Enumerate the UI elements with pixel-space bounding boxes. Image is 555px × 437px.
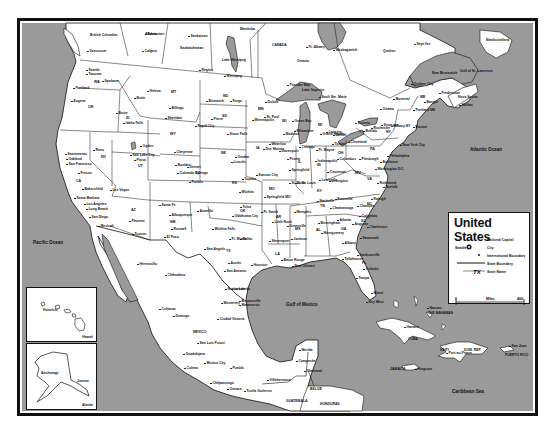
city-dot-icon	[239, 192, 241, 194]
city-label: Rapid City	[198, 125, 215, 128]
label-lake-superior: Lake Superior	[302, 89, 325, 92]
city-label: Chattanooga	[333, 207, 354, 210]
city-label: Raleigh	[374, 198, 386, 201]
city-dot-icon	[66, 164, 68, 166]
city-label: Milwaukee	[297, 130, 314, 133]
city-dot-icon	[231, 162, 233, 164]
city-dot-icon	[224, 271, 226, 273]
city-label: Albany	[345, 242, 356, 245]
label-ontario: Ontario	[297, 60, 309, 63]
city-label: Portland ME	[416, 109, 436, 112]
city-label: Ft. Albany	[309, 46, 325, 49]
city-dot-icon	[184, 368, 186, 370]
legend-row-capital: National Capital	[449, 237, 531, 245]
city-label: Greenville	[290, 225, 306, 228]
city-dot-icon	[147, 91, 149, 93]
city-dot-icon	[375, 169, 377, 171]
city-dot-icon	[195, 126, 197, 128]
city-dot-icon	[294, 131, 296, 133]
city-label: Ft. Smith	[264, 211, 279, 214]
city-dot-icon	[439, 93, 441, 95]
label-gulf-of-mexico: Gulf of Mexico	[286, 303, 318, 308]
city-dot-icon	[363, 269, 365, 271]
city-label: Birmingham	[321, 222, 341, 225]
city-dot-icon	[342, 243, 344, 245]
city-label: Sept Iles	[417, 43, 431, 46]
city-label: Tampa	[359, 277, 370, 280]
city-dot-icon	[165, 118, 167, 120]
city-dot-icon	[142, 51, 144, 53]
city-dot-icon	[424, 102, 426, 104]
state-label-wv: WV	[355, 172, 361, 176]
state-label-nm: NM	[170, 221, 176, 225]
city-label: Key West	[369, 301, 384, 304]
state-label-oh: OH	[338, 152, 343, 156]
city-label: Tacoma	[89, 73, 102, 76]
city-label: Oklahoma City	[235, 215, 259, 218]
city-label: Tucson	[135, 233, 147, 236]
city-label: San Diego	[92, 216, 109, 219]
state-label-ut: UT	[138, 165, 143, 169]
city-dot-icon	[414, 44, 416, 46]
city-dot-icon	[383, 187, 385, 189]
scale-start: 0	[455, 297, 457, 301]
city-label: Philadelphia	[390, 155, 410, 158]
city-label: Salt Lake City	[133, 154, 155, 157]
state-label-al: AL	[316, 229, 321, 233]
city-dot-icon	[269, 144, 271, 146]
city-label: Norfolk	[386, 186, 398, 189]
city-label: Fredericton	[442, 92, 461, 95]
city-label: Winnipeg	[227, 75, 242, 78]
label-newfoundland: Newfoundland	[486, 39, 509, 42]
city-dot-icon	[295, 183, 297, 185]
city-label: San Francisco	[69, 163, 92, 166]
city-label: Dallas	[243, 238, 253, 241]
city-dot-icon	[74, 198, 76, 200]
city-label: Buffalo	[366, 130, 378, 133]
city-label: Spokane	[105, 80, 119, 83]
city-label: Denver	[190, 166, 202, 169]
city-label: Savannah	[363, 237, 379, 240]
city-label: Pueblo	[192, 181, 203, 184]
legend-row-city: Seattle City	[449, 245, 531, 253]
city-dot-icon	[169, 108, 171, 110]
city-dot-icon	[73, 88, 75, 90]
city-dot-icon	[289, 183, 291, 185]
city-dot-icon	[183, 354, 185, 356]
city-label: Monterrey	[224, 302, 240, 305]
label-honduras: HONDURAS	[320, 403, 340, 406]
city-label: Santa Barbara	[77, 197, 100, 200]
city-dot-icon	[291, 239, 293, 241]
alaska-caption: Alaska	[82, 403, 93, 407]
city-label: St. Paul	[267, 116, 279, 119]
city-dot-icon	[352, 224, 354, 226]
city-dot-icon	[355, 123, 357, 125]
city-dot-icon	[269, 241, 271, 243]
label-lake-winnipeg: Lake Winnipeg	[222, 59, 246, 62]
city-label: Bismarck	[209, 100, 224, 103]
city-label: Washington D.C.	[378, 168, 405, 171]
city-dot-icon	[145, 34, 147, 36]
city-dot-icon	[102, 81, 104, 83]
city-label: Helena	[150, 90, 161, 93]
city-label: Fargo	[233, 100, 242, 103]
state-label-wy: WY	[170, 133, 176, 137]
state-label-mn: MN	[258, 108, 264, 112]
city-label: Ciudad Victoria	[220, 318, 245, 321]
state-label-me: ME	[420, 96, 425, 100]
city-label: Topeka	[245, 178, 257, 181]
city-label: Shreveport	[272, 240, 290, 243]
city-label: New York City	[403, 144, 426, 147]
state-label-or: OR	[88, 106, 93, 110]
city-dot-icon	[264, 117, 266, 119]
city-dot-icon	[134, 160, 136, 162]
city-label: Waterloo	[272, 143, 286, 146]
city-label: Havana	[407, 326, 419, 329]
city-dot-icon	[199, 70, 201, 72]
city-dot-icon	[363, 131, 365, 133]
city-dot-icon	[159, 309, 161, 311]
city-dot-icon	[140, 146, 142, 148]
city-dot-icon	[335, 199, 337, 201]
legend-row-state-boundary: State Boundary	[449, 261, 531, 269]
city-label: Toronto	[358, 122, 371, 125]
